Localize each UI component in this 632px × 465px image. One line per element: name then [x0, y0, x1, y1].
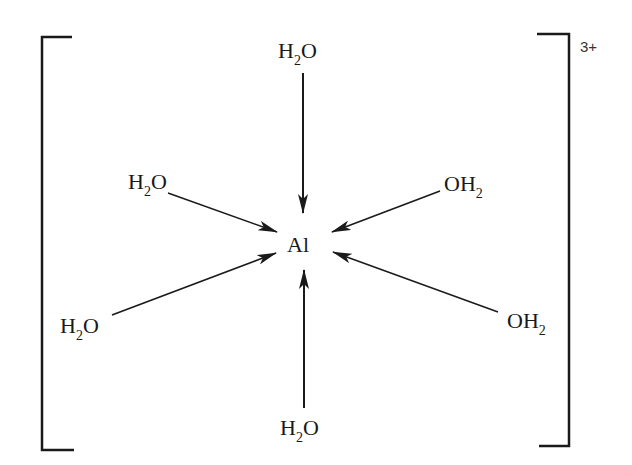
left-bracket: [42, 37, 74, 450]
ligand-upper-left: H2O: [128, 171, 167, 196]
ligand-upper-right: OH2: [444, 173, 483, 198]
bond-arrow-upper-right: [332, 191, 440, 232]
right-bracket: [537, 34, 569, 446]
bond-arrow-upper-left: [168, 193, 277, 232]
ligand-lower-left: H2O: [60, 315, 99, 340]
ligand-bottom: H2O: [280, 417, 319, 442]
bond-arrow-lower-right: [333, 252, 498, 312]
bond-arrow-lower-left: [112, 253, 276, 315]
complex-diagram: [0, 0, 632, 465]
ligand-lower-right: OH2: [507, 310, 546, 335]
ion-charge: 3+: [580, 38, 597, 55]
central-atom: Al: [287, 232, 309, 258]
ligand-top: H2O: [278, 40, 317, 65]
